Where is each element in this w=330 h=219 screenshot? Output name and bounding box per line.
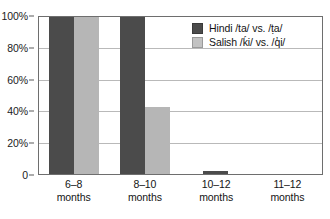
legend-color-swatch bbox=[192, 37, 203, 48]
x-axis-label-line1: 10–12 bbox=[202, 178, 231, 190]
y-axis-tick bbox=[29, 16, 34, 17]
y-axis-tick-label: 40% bbox=[7, 105, 28, 117]
x-axis-category-label: 11–12months bbox=[252, 178, 323, 204]
legend-label: Salish /ḱi/ vs. /q̓i/ bbox=[209, 36, 285, 48]
legend-item: Salish /ḱi/ vs. /q̓i/ bbox=[192, 36, 285, 48]
bar bbox=[49, 17, 74, 174]
bar bbox=[203, 171, 228, 174]
bar bbox=[145, 107, 170, 175]
legend: Hindi /ta/ vs. /ṭa/Salish /ḱi/ vs. /q̓i/ bbox=[192, 22, 285, 48]
legend-label: Hindi /ta/ vs. /ṭa/ bbox=[209, 22, 282, 34]
x-axis-label-line1: 8–10 bbox=[133, 178, 156, 190]
y-axis-tick bbox=[29, 79, 34, 80]
y-axis-tick bbox=[29, 143, 34, 144]
y-axis-tick bbox=[29, 175, 34, 176]
x-axis-category-label: 6–8months bbox=[38, 178, 109, 204]
bar bbox=[74, 17, 99, 174]
x-axis-labels: 6–8months8–10months10–12months11–12month… bbox=[38, 178, 323, 204]
x-axis-label-line2: months bbox=[181, 191, 252, 204]
x-axis-label-line2: months bbox=[252, 191, 323, 204]
x-axis-label-line1: 6–8 bbox=[65, 178, 82, 190]
x-axis-label-line2: months bbox=[109, 191, 180, 204]
legend-color-swatch bbox=[192, 23, 203, 34]
y-axis-tick bbox=[29, 111, 34, 112]
y-axis: 020%40%60%80%100% bbox=[0, 16, 34, 175]
legend-item: Hindi /ta/ vs. /ṭa/ bbox=[192, 22, 285, 34]
y-axis-tick-label: 20% bbox=[7, 137, 28, 149]
bar-group bbox=[110, 17, 181, 174]
y-axis-tick-label: 100% bbox=[2, 10, 28, 22]
x-axis-category-label: 8–10months bbox=[109, 178, 180, 204]
y-axis-tick-label: 80% bbox=[7, 42, 28, 54]
bar-group bbox=[39, 17, 110, 174]
y-axis-tick-label: 60% bbox=[7, 74, 28, 86]
x-axis-label-line2: months bbox=[38, 191, 109, 204]
y-axis-tick bbox=[29, 47, 34, 48]
x-axis-label-line1: 11–12 bbox=[273, 178, 301, 190]
bar-chart: 020%40%60%80%100% 6–8months8–10months10–… bbox=[0, 0, 330, 219]
x-axis-category-label: 10–12months bbox=[181, 178, 252, 204]
bar bbox=[120, 17, 145, 174]
y-axis-tick-label: 0 bbox=[22, 169, 28, 181]
